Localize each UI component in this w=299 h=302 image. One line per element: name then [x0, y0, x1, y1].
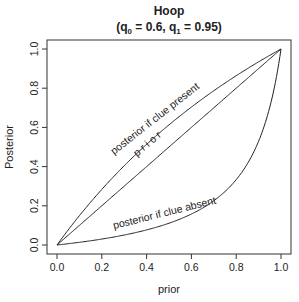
y-tick-label: 0.8	[28, 81, 40, 96]
y-tick-label: 0.4	[28, 159, 40, 174]
x-tick-label: 0.0	[50, 261, 65, 273]
y-axis-label: Posterior	[3, 125, 15, 169]
x-tick-label: 0.2	[94, 261, 109, 273]
y-tick-label: 0.0	[28, 238, 40, 253]
y-axis: 0.00.20.40.60.81.0	[28, 42, 47, 253]
x-tick-label: 0.6	[184, 261, 199, 273]
label-posterior-clue-present: posterior if clue present	[108, 80, 201, 157]
y-tick-label: 1.0	[28, 42, 40, 57]
x-tick-label: 0.8	[229, 261, 244, 273]
y-tick-label: 0.6	[28, 120, 40, 135]
label-posterior-clue-absent: posterior if clue absent	[112, 194, 217, 231]
chart-title: Hoop	[154, 4, 185, 18]
x-axis-label: prior	[158, 283, 180, 295]
x-tick-label: 1.0	[274, 261, 289, 273]
hoop-posterior-chart: Hoop (q0 = 0.6, q1 = 0.95) 0.00.20.40.60…	[0, 0, 299, 302]
x-tick-label: 0.4	[139, 261, 154, 273]
y-tick-label: 0.2	[28, 198, 40, 213]
chart-subtitle: (q0 = 0.6, q1 = 0.95)	[116, 20, 222, 36]
x-axis: 0.00.20.40.60.81.0	[50, 254, 289, 273]
